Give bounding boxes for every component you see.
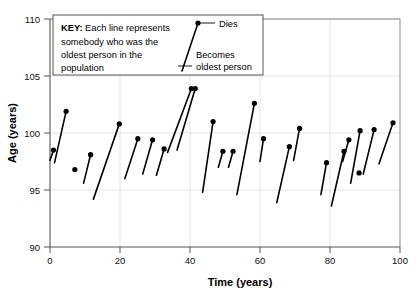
death-point	[356, 170, 361, 175]
key-sample-death-dot	[195, 20, 200, 25]
death-point	[220, 149, 225, 154]
key-label-bold: KEY:	[61, 23, 83, 33]
death-point	[162, 146, 167, 151]
lifeline-segment	[84, 155, 91, 184]
key-dies-label: Dies	[219, 19, 238, 29]
x-axis-ticks: 0 20 40 60 80 100	[47, 247, 408, 266]
lifeline-segment	[237, 103, 255, 194]
death-point	[261, 136, 266, 141]
death-point	[372, 127, 377, 132]
lifeline-segment	[379, 123, 393, 164]
key-line-3: oldest person in the	[61, 50, 142, 60]
ytick-label-105: 105	[24, 71, 40, 82]
lifeline-segment	[125, 139, 138, 179]
y-axis-ticks: 110 105 100 95 90	[24, 14, 50, 253]
key-line-1-rest: Each line represents	[83, 23, 171, 33]
ytick-label-100: 100	[24, 128, 40, 139]
death-point	[72, 167, 77, 172]
lifeline-segment	[363, 130, 374, 174]
data-series-lifelines	[50, 86, 396, 206]
x-axis-title: Time (years)	[208, 276, 273, 288]
death-point	[324, 160, 329, 165]
key-legend-box: KEY: Each line represents somebody who w…	[53, 15, 263, 75]
lifeline-segment	[93, 124, 119, 199]
chart-container: 110 105 100 95 90 0 20 40 60 80 100 Time…	[0, 0, 416, 301]
key-line-4: population	[61, 63, 104, 73]
death-point	[230, 149, 235, 154]
death-point	[287, 144, 292, 149]
ytick-label-90: 90	[29, 242, 40, 253]
lifeline-segment	[143, 140, 153, 174]
death-point	[150, 137, 155, 142]
lifespan-chart: 110 105 100 95 90 0 20 40 60 80 100 Time…	[0, 0, 416, 301]
death-point	[390, 120, 395, 125]
lifeline-segment	[331, 151, 344, 206]
death-point	[117, 121, 122, 126]
death-point	[211, 119, 216, 124]
death-point	[346, 137, 351, 142]
death-point	[135, 136, 140, 141]
death-point	[358, 128, 363, 133]
death-point	[252, 101, 257, 106]
death-point	[193, 86, 198, 91]
key-becomes-label-2: oldest person	[196, 62, 252, 72]
lifeline-segment	[156, 149, 164, 175]
lifeline-segment	[55, 111, 67, 162]
y-axis-title: Age (years)	[6, 103, 18, 163]
lifeline-segment	[203, 122, 214, 193]
key-line-2: somebody who was the	[61, 37, 158, 47]
xtick-label-20: 20	[115, 255, 126, 266]
death-point	[51, 148, 56, 153]
death-point	[297, 126, 302, 131]
ytick-label-110: 110	[25, 14, 40, 25]
lifeline-segment	[260, 139, 264, 162]
death-point	[88, 152, 93, 157]
death-point	[64, 109, 69, 114]
key-line-1: KEY: Each line represents	[61, 23, 170, 33]
xtick-label-40: 40	[185, 255, 196, 266]
xtick-label-100: 100	[392, 255, 408, 266]
lifeline-segment	[277, 147, 290, 203]
xtick-label-60: 60	[255, 255, 266, 266]
xtick-label-80: 80	[325, 255, 336, 266]
xtick-label-0: 0	[47, 255, 52, 266]
ytick-label-95: 95	[29, 185, 40, 196]
key-becomes-label-1: Becomes	[196, 50, 235, 60]
